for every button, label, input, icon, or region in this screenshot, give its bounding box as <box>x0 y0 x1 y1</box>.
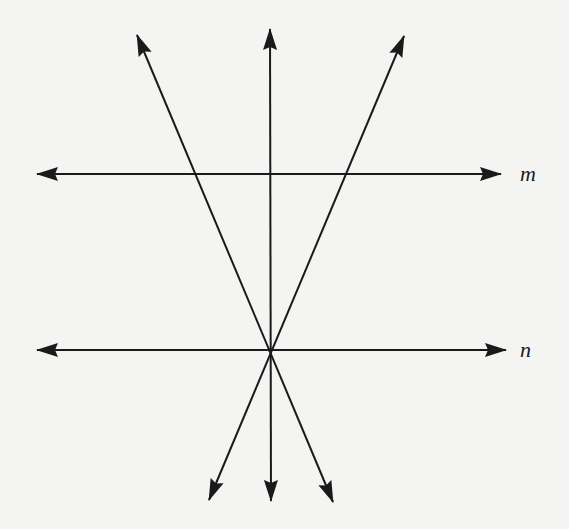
line-diagonal-right <box>209 36 404 500</box>
parallel-lines-diagram: m n <box>0 0 569 529</box>
label-m: m <box>520 161 536 186</box>
label-n: n <box>520 337 531 362</box>
line-diagonal-left <box>137 35 333 502</box>
intersection-point <box>268 348 272 352</box>
line-vertical <box>270 29 271 501</box>
